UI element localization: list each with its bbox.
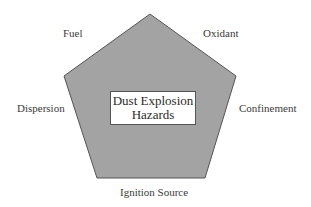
label-dispersion: Dispersion bbox=[17, 102, 65, 115]
label-ignition-source: Ignition Source bbox=[120, 186, 188, 199]
center-title-line2: Hazards bbox=[132, 108, 175, 122]
label-confinement: Confinement bbox=[239, 102, 296, 115]
label-fuel: Fuel bbox=[63, 27, 83, 40]
label-oxidant: Oxidant bbox=[203, 27, 238, 40]
center-title-box: Dust Explosion Hazards bbox=[110, 91, 196, 125]
center-title-line1: Dust Explosion bbox=[113, 94, 194, 108]
dust-explosion-pentagon-diagram: Dust Explosion Hazards Fuel Oxidant Disp… bbox=[0, 0, 311, 207]
